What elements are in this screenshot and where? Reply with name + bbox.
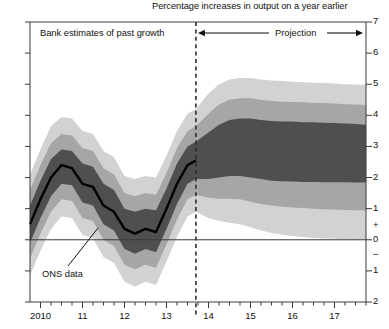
y-tick-label: – bbox=[373, 248, 389, 259]
x-tick-label: 16 bbox=[273, 310, 313, 321]
y-tick-label: 2 bbox=[373, 171, 389, 182]
y-tick-label: 3 bbox=[373, 139, 389, 150]
x-tick-label: 14 bbox=[189, 310, 229, 321]
x-tick-label: 2010 bbox=[21, 310, 61, 321]
x-tick-label: 13 bbox=[147, 310, 187, 321]
y-tick-label: + bbox=[373, 219, 389, 230]
x-tick-label: 12 bbox=[105, 310, 145, 321]
y-tick-label: 6 bbox=[373, 46, 389, 57]
y-tick-label: 2 bbox=[373, 295, 389, 306]
x-tick-label: 15 bbox=[231, 310, 271, 321]
y-tick-label: 7 bbox=[373, 15, 389, 26]
x-tick-label: 11 bbox=[63, 310, 103, 321]
y-tick-label: 4 bbox=[373, 108, 389, 119]
projection-arrow bbox=[198, 30, 363, 36]
x-tick-label: 17 bbox=[315, 310, 355, 321]
y-tick-label: 5 bbox=[373, 77, 389, 88]
y-tick-label: 0 bbox=[373, 233, 389, 244]
fan-chart: Percentage increases in output on a year… bbox=[0, 0, 389, 329]
plot-canvas bbox=[0, 0, 389, 329]
y-tick-label: 1 bbox=[373, 202, 389, 213]
y-tick-label: 1 bbox=[373, 264, 389, 275]
